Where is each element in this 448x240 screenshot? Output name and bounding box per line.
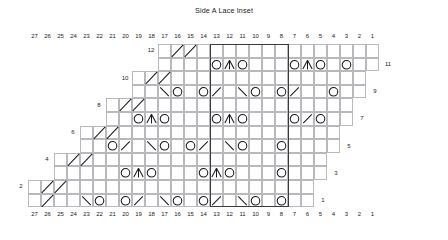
chart-cell[interactable] xyxy=(158,58,171,72)
chart-cell[interactable] xyxy=(132,194,145,208)
chart-cell[interactable] xyxy=(80,153,93,167)
chart-cell[interactable] xyxy=(41,194,54,208)
chart-cell[interactable] xyxy=(93,166,106,180)
chart-cell[interactable] xyxy=(106,98,119,112)
chart-cell[interactable] xyxy=(197,98,210,112)
chart-cell[interactable] xyxy=(236,194,249,208)
chart-cell[interactable] xyxy=(80,194,93,208)
chart-cell[interactable] xyxy=(275,85,288,99)
chart-cell[interactable] xyxy=(28,180,41,194)
chart-cell[interactable] xyxy=(158,44,171,58)
chart-cell[interactable] xyxy=(210,98,223,112)
chart-cell[interactable] xyxy=(184,85,197,99)
chart-cell[interactable] xyxy=(340,44,353,58)
chart-cell[interactable] xyxy=(119,112,132,126)
chart-cell[interactable] xyxy=(54,194,67,208)
chart-cell[interactable] xyxy=(327,71,340,85)
chart-cell[interactable] xyxy=(262,153,275,167)
chart-cell[interactable] xyxy=(210,153,223,167)
chart-cell[interactable] xyxy=(197,180,210,194)
chart-cell[interactable] xyxy=(184,153,197,167)
chart-cell[interactable] xyxy=(301,166,314,180)
chart-cell[interactable] xyxy=(353,58,366,72)
chart-cell[interactable] xyxy=(275,166,288,180)
chart-cell[interactable] xyxy=(223,58,236,72)
chart-cell[interactable] xyxy=(314,85,327,99)
chart-cell[interactable] xyxy=(132,139,145,153)
chart-cell[interactable] xyxy=(327,98,340,112)
chart-cell[interactable] xyxy=(145,112,158,126)
chart-cell[interactable] xyxy=(171,85,184,99)
chart-cell[interactable] xyxy=(106,126,119,140)
chart-cell[interactable] xyxy=(210,112,223,126)
chart-cell[interactable] xyxy=(275,98,288,112)
chart-cell[interactable] xyxy=(80,139,93,153)
chart-cell[interactable] xyxy=(262,85,275,99)
chart-cell[interactable] xyxy=(197,153,210,167)
chart-cell[interactable] xyxy=(301,58,314,72)
chart-cell[interactable] xyxy=(301,153,314,167)
chart-cell[interactable] xyxy=(171,71,184,85)
chart-cell[interactable] xyxy=(314,166,327,180)
chart-cell[interactable] xyxy=(249,85,262,99)
chart-cell[interactable] xyxy=(236,139,249,153)
chart-cell[interactable] xyxy=(210,166,223,180)
chart-cell[interactable] xyxy=(288,71,301,85)
chart-cell[interactable] xyxy=(171,98,184,112)
chart-cell[interactable] xyxy=(158,85,171,99)
chart-cell[interactable] xyxy=(236,85,249,99)
chart-cell[interactable] xyxy=(67,180,80,194)
chart-cell[interactable] xyxy=(236,166,249,180)
chart-cell[interactable] xyxy=(327,44,340,58)
chart-cell[interactable] xyxy=(158,153,171,167)
chart-cell[interactable] xyxy=(41,180,54,194)
chart-cell[interactable] xyxy=(184,126,197,140)
chart-cell[interactable] xyxy=(210,126,223,140)
chart-cell[interactable] xyxy=(262,166,275,180)
chart-cell[interactable] xyxy=(275,180,288,194)
chart-cell[interactable] xyxy=(28,194,41,208)
chart-cell[interactable] xyxy=(301,194,314,208)
chart-cell[interactable] xyxy=(171,153,184,167)
chart-cell[interactable] xyxy=(119,126,132,140)
chart-cell[interactable] xyxy=(249,194,262,208)
chart-cell[interactable] xyxy=(236,153,249,167)
chart-cell[interactable] xyxy=(314,71,327,85)
chart-cell[interactable] xyxy=(145,194,158,208)
chart-cell[interactable] xyxy=(340,85,353,99)
chart-cell[interactable] xyxy=(106,194,119,208)
chart-cell[interactable] xyxy=(210,180,223,194)
chart-cell[interactable] xyxy=(327,139,340,153)
chart-cell[interactable] xyxy=(158,98,171,112)
chart-cell[interactable] xyxy=(262,139,275,153)
chart-cell[interactable] xyxy=(366,44,379,58)
chart-cell[interactable] xyxy=(210,85,223,99)
chart-cell[interactable] xyxy=(54,180,67,194)
chart-cell[interactable] xyxy=(223,139,236,153)
chart-cell[interactable] xyxy=(301,71,314,85)
chart-cell[interactable] xyxy=(223,194,236,208)
chart-cell[interactable] xyxy=(93,126,106,140)
chart-cell[interactable] xyxy=(158,166,171,180)
chart-cell[interactable] xyxy=(197,166,210,180)
chart-cell[interactable] xyxy=(236,71,249,85)
chart-cell[interactable] xyxy=(340,98,353,112)
chart-cell[interactable] xyxy=(132,153,145,167)
chart-cell[interactable] xyxy=(93,153,106,167)
chart-cell[interactable] xyxy=(119,194,132,208)
chart-cell[interactable] xyxy=(288,180,301,194)
chart-cell[interactable] xyxy=(80,180,93,194)
chart-cell[interactable] xyxy=(301,180,314,194)
chart-cell[interactable] xyxy=(249,112,262,126)
chart-cell[interactable] xyxy=(54,166,67,180)
chart-cell[interactable] xyxy=(119,180,132,194)
chart-cell[interactable] xyxy=(119,153,132,167)
chart-cell[interactable] xyxy=(106,153,119,167)
chart-cell[interactable] xyxy=(223,180,236,194)
chart-cell[interactable] xyxy=(301,44,314,58)
chart-cell[interactable] xyxy=(158,126,171,140)
chart-cell[interactable] xyxy=(262,180,275,194)
chart-cell[interactable] xyxy=(184,194,197,208)
chart-cell[interactable] xyxy=(145,71,158,85)
chart-cell[interactable] xyxy=(184,112,197,126)
